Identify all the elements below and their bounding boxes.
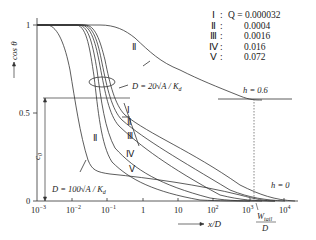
d20-annotation: D = 20√A / Kd [131,81,183,92]
y-tick-1: 1 [26,20,30,30]
svg-text:102: 102 [207,204,219,215]
svg-text:1: 1 [141,205,145,215]
legend-row: Ⅴ:0.072 [206,52,281,63]
legend: Ⅰ:Q = 0.000032 Ⅱ:0.0004 Ⅲ:0.0016 Ⅳ:0.016… [206,10,281,63]
legend-row: Ⅲ:0.0016 [206,31,281,42]
y-axis-arrow [13,62,16,78]
legend-row: Ⅳ:0.016 [206,42,281,53]
svg-text:10: 10 [174,205,183,215]
svg-text:10−3: 10−3 [31,204,46,215]
x-tick-labels: 10−3 10−2 10−1 1 10 102 103 104 [31,204,291,215]
svg-text:103: 103 [242,204,254,215]
svg-text:10−2: 10−2 [66,204,81,215]
label-II-top: Ⅱ [132,42,136,52]
svg-text:10−1: 10−1 [101,204,116,215]
y-axis-label: cos θ [9,41,19,60]
h0-annotation: h = 0 [271,180,290,190]
y-tick-0: 0 [26,196,30,206]
legend-row: Ⅰ:Q = 0.000032 [206,10,281,21]
group-ellipse [89,77,115,87]
x-axis-label: x/D [207,219,221,229]
label-IV: Ⅳ [126,149,135,159]
d100-annotation: D = 100√A / Kd [51,184,107,195]
label-III: Ⅲ [127,131,133,141]
h06-annotation: h = 0.6 [243,85,269,95]
label-II: Ⅱ [127,117,131,127]
svg-text:D: D [261,223,269,233]
legend-row: Ⅱ:0.0004 [206,21,281,32]
wtail-annotation: Wtail D [256,203,276,233]
label-II-left: Ⅱ [93,133,97,143]
svg-text:Wtail: Wtail [257,211,272,222]
x-axis-arrow [178,223,204,226]
label-V: Ⅴ [129,164,136,174]
label-I: Ⅰ [127,105,130,115]
svg-text:104: 104 [279,204,291,215]
c0-annotation: c0 [32,153,43,160]
y-tick-05: 0.5 [19,108,30,118]
